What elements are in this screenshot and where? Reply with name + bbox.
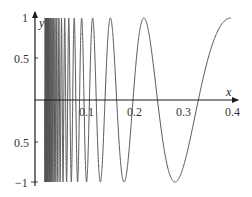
x-tick-label-0.4: 0.4 xyxy=(225,105,240,119)
y-tick-label-neg-0.5: 0.5 xyxy=(14,136,29,150)
y-tick-label-neg-1: −1 xyxy=(15,176,28,190)
x-axis-label: x xyxy=(225,85,232,99)
y-axis-label: y xyxy=(38,16,45,30)
x-tick-label-0.1: 0.1 xyxy=(79,105,94,119)
chart: y x 1 0.5 0.5 −1 0.1 0.2 0.3 0.4 xyxy=(0,0,252,197)
y-tick-label-1: 1 xyxy=(22,11,28,25)
y-tick-label-0.5: 0.5 xyxy=(14,52,29,66)
x-tick-label-0.2: 0.2 xyxy=(127,105,142,119)
x-tick-label-0.3: 0.3 xyxy=(176,105,191,119)
